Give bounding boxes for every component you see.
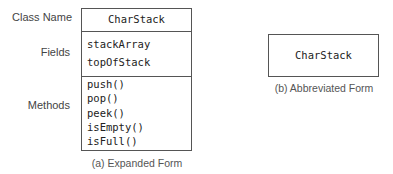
abbreviated-class-box: CharStack xyxy=(268,34,379,77)
caption-expanded: (a) Expanded Form xyxy=(76,157,198,169)
label-class-name: Class Name xyxy=(0,11,72,23)
caption-abbreviated: (b) Abbreviated Form xyxy=(262,82,386,94)
expanded-class-box: CharStack stackArray topOfStack push() p… xyxy=(81,8,192,151)
class-name: CharStack xyxy=(269,49,378,61)
fields-section: stackArray topOfStack xyxy=(82,32,191,76)
methods-section: push() pop() peek() isEmpty() isFull() xyxy=(82,77,191,151)
class-name: CharStack xyxy=(82,13,191,25)
label-methods: Methods xyxy=(0,99,70,111)
method-item: pop() xyxy=(87,92,119,104)
label-fields: Fields xyxy=(0,46,70,58)
method-item: peek() xyxy=(87,107,125,119)
class-name-section: CharStack xyxy=(82,9,191,31)
field-item: stackArray xyxy=(87,38,150,50)
method-item: isFull() xyxy=(87,135,138,147)
method-item: isEmpty() xyxy=(87,121,144,133)
field-item: topOfStack xyxy=(87,56,150,68)
method-item: push() xyxy=(87,78,125,90)
